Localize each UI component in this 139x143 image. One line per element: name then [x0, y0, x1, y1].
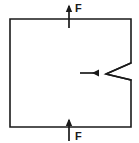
load-label-top: F — [75, 2, 82, 14]
specimen-outline — [10, 19, 131, 127]
load-arrow-top: F — [66, 2, 82, 28]
load-label-bottom: F — [75, 130, 82, 142]
notch-pointer-arrow — [80, 70, 99, 77]
diagram-canvas: F F — [0, 0, 139, 143]
load-arrow-bottom: F — [66, 119, 82, 143]
notch-pointer-head — [92, 70, 99, 77]
load-arrow-top-head — [66, 5, 72, 13]
load-arrow-bottom-head — [66, 119, 72, 127]
fracture-specimen-diagram: F F — [0, 0, 139, 143]
